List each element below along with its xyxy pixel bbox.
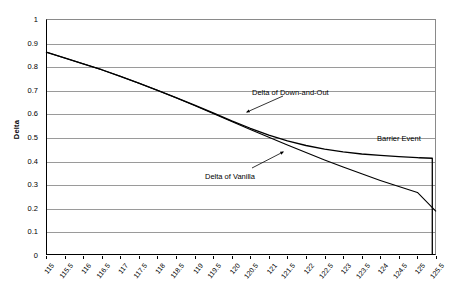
x-tick-mark (139, 256, 140, 259)
x-axis-tick-labels: 115115.5116116.5117117.5118118.5119119.5… (46, 256, 436, 289)
x-tick-mark (213, 256, 214, 259)
x-tick-mark (399, 256, 400, 259)
y-tick-label: 0.1 (0, 227, 38, 236)
y-axis-tick-labels: 1 0.9 0.8 0.7 0.6 0.5 0.4 0.3 0.2 0.1 0 (0, 19, 42, 255)
x-tick-mark (325, 256, 326, 259)
y-tick-label: 0.9 (0, 38, 38, 47)
x-tick-mark (102, 256, 103, 259)
series-line-down-and-out (46, 52, 432, 255)
y-tick-label: 0.7 (0, 85, 38, 94)
x-tick-mark (195, 256, 196, 259)
y-tick-label: 0.5 (0, 133, 38, 142)
annotation-barrier-event: Barrier Event (377, 134, 421, 143)
x-tick-mark (83, 256, 84, 259)
x-tick-mark (250, 256, 251, 259)
annotation-delta-down-and-out: Delta of Down-and-Out (252, 88, 329, 97)
x-tick-mark (343, 256, 344, 259)
x-tick-mark (380, 256, 381, 259)
x-tick-mark (65, 256, 66, 259)
x-tick-mark (362, 256, 363, 259)
x-tick-mark (157, 256, 158, 259)
y-tick-label: 0.4 (0, 156, 38, 165)
x-tick-mark (287, 256, 288, 259)
x-tick-mark (120, 256, 121, 259)
chart-container: Delta 1 0.9 0.8 0.7 0.6 0.5 0.4 0.3 0.2 … (0, 0, 454, 289)
annotation-delta-vanilla: Delta of Vanilla (205, 172, 255, 181)
y-tick-label: 0 (0, 251, 38, 260)
x-tick-mark (46, 256, 47, 259)
y-tick-label: 0.8 (0, 62, 38, 71)
y-tick-label: 0.2 (0, 203, 38, 212)
y-tick-label: 0.6 (0, 109, 38, 118)
x-tick-mark (436, 256, 437, 259)
x-tick-mark (417, 256, 418, 259)
x-tick-mark (269, 256, 270, 259)
x-tick-mark (306, 256, 307, 259)
x-tick-mark (176, 256, 177, 259)
y-tick-label: 0.3 (0, 180, 38, 189)
series-line-vanilla (46, 52, 436, 211)
x-tick-mark (232, 256, 233, 259)
y-tick-label: 1 (0, 15, 38, 24)
